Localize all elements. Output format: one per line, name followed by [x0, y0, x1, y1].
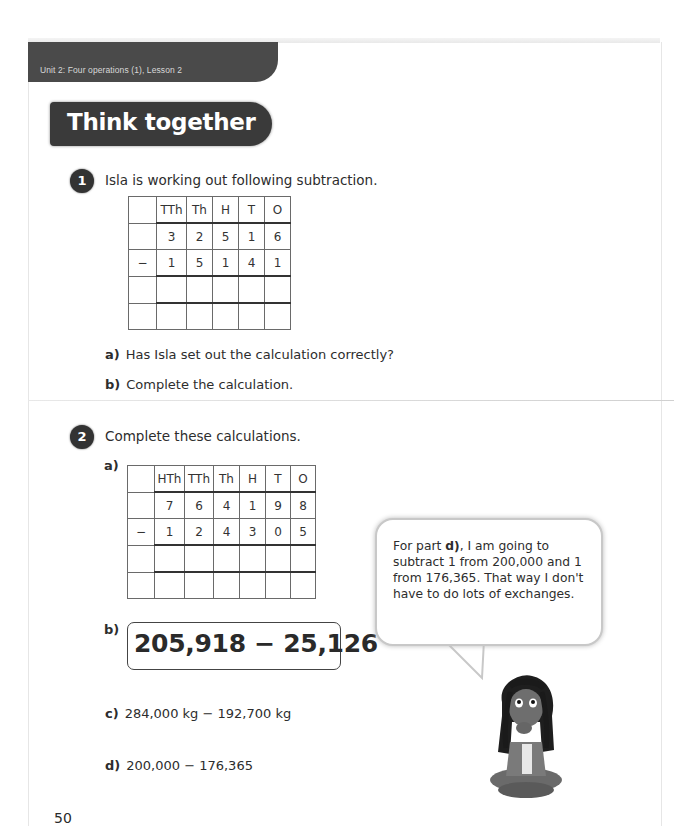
column-header-h: H: [240, 466, 266, 493]
page-number: 50: [54, 810, 72, 826]
answer-cell: [128, 545, 155, 572]
question-2-number-badge: 2: [70, 425, 94, 449]
table-row: − 1 2 4 3 0 5: [128, 519, 316, 546]
table-cell: 1: [239, 223, 265, 250]
minus-sign: −: [128, 519, 155, 546]
answer-cell[interactable]: [213, 276, 239, 303]
answer-row: [128, 572, 316, 599]
answer-cell[interactable]: [265, 303, 291, 330]
answer-cell[interactable]: [239, 303, 265, 330]
table-cell: [129, 223, 157, 250]
column-header-t: T: [266, 466, 291, 493]
table-cell: 5: [291, 519, 316, 546]
table-row: 3 2 5 1 6: [129, 223, 291, 250]
table-cell: 2: [185, 519, 214, 546]
question-2-part-c: c)284,000 kg − 192,700 kg: [105, 706, 291, 721]
question-2-part-b-label: b): [104, 622, 125, 637]
table-cell: [128, 492, 155, 519]
answer-row: [128, 545, 316, 572]
table-cell: 4: [214, 492, 240, 519]
answer-cell: [129, 276, 157, 303]
table-cell: [129, 197, 157, 224]
expression-q2b: 205,918 − 25,126: [134, 629, 378, 658]
section-title-pill: Think together: [50, 102, 272, 146]
table-header-row: HTh TTh Th H T O: [128, 466, 316, 493]
table-cell: 9: [266, 492, 291, 519]
table-cell: 1: [240, 492, 266, 519]
answer-cell[interactable]: [185, 572, 214, 599]
unit-label: Unit 2: Four operations (1), Lesson 2: [40, 65, 182, 75]
column-header-tth: TTh: [185, 466, 214, 493]
answer-cell: [129, 303, 157, 330]
answer-cell[interactable]: [266, 545, 291, 572]
answer-cell[interactable]: [214, 572, 240, 599]
table-cell: 3: [157, 223, 187, 250]
answer-cell[interactable]: [155, 572, 185, 599]
answer-cell[interactable]: [265, 276, 291, 303]
girl-thinking-icon: [480, 672, 572, 802]
table-cell: 7: [155, 492, 185, 519]
table-cell: 0: [266, 519, 291, 546]
place-value-table-q2a: HTh TTh Th H T O 7 6 4 1 9 8 − 1 2 4 3 0…: [127, 465, 316, 599]
answer-cell[interactable]: [155, 545, 185, 572]
table-cell: 8: [291, 492, 316, 519]
answer-cell[interactable]: [266, 572, 291, 599]
table-cell: 1: [155, 519, 185, 546]
answer-cell[interactable]: [185, 545, 214, 572]
question-1-prompt: Isla is working out following subtractio…: [105, 172, 377, 188]
answer-cell[interactable]: [240, 572, 266, 599]
table-cell: 6: [185, 492, 214, 519]
table-header-row: TTh Th H T O: [129, 197, 291, 224]
answer-cell[interactable]: [187, 276, 213, 303]
answer-cell: [128, 572, 155, 599]
answer-cell[interactable]: [157, 303, 187, 330]
table-cell: [128, 466, 155, 493]
column-header-h: H: [213, 197, 239, 224]
table-cell: 3: [240, 519, 266, 546]
column-header-o: O: [291, 466, 316, 493]
table-cell: 1: [265, 250, 291, 277]
table-cell: 5: [213, 223, 239, 250]
column-header-th: Th: [214, 466, 240, 493]
page-fold-line: [28, 400, 674, 401]
column-header-hth: HTh: [155, 466, 185, 493]
table-cell: 5: [187, 250, 213, 277]
table-cell: 4: [239, 250, 265, 277]
question-1-part-b: b)Complete the calculation.: [105, 377, 293, 392]
question-2-prompt: Complete these calculations.: [105, 428, 301, 444]
answer-cell[interactable]: [213, 303, 239, 330]
column-header-th: Th: [187, 197, 213, 224]
column-header-o: O: [265, 197, 291, 224]
column-header-tth: TTh: [157, 197, 187, 224]
table-cell: 4: [214, 519, 240, 546]
question-1-number-badge: 1: [70, 169, 94, 193]
expression-box-q2b: 205,918 − 25,126: [127, 622, 341, 670]
answer-row: [129, 303, 291, 330]
table-row: 7 6 4 1 9 8: [128, 492, 316, 519]
answer-cell[interactable]: [157, 276, 187, 303]
answer-row: [129, 276, 291, 303]
answer-cell[interactable]: [291, 572, 316, 599]
speech-bubble-text: For part d), I am going to subtract 1 fr…: [393, 538, 593, 602]
minus-sign: −: [129, 250, 157, 277]
table-row: − 1 5 1 4 1: [129, 250, 291, 277]
answer-cell[interactable]: [291, 545, 316, 572]
table-cell: 1: [213, 250, 239, 277]
answer-cell[interactable]: [239, 276, 265, 303]
answer-cell[interactable]: [214, 545, 240, 572]
column-header-t: T: [239, 197, 265, 224]
table-cell: 6: [265, 223, 291, 250]
question-2-part-d: d)200,000 − 176,365: [105, 758, 253, 773]
question-2-part-a-label: a): [104, 458, 125, 473]
table-cell: 2: [187, 223, 213, 250]
unit-header-bar: Unit 2: Four operations (1), Lesson 2: [28, 42, 278, 82]
table-cell: 1: [157, 250, 187, 277]
answer-cell[interactable]: [187, 303, 213, 330]
place-value-table-q1: TTh Th H T O 3 2 5 1 6 − 1 5 1 4 1: [128, 196, 291, 330]
answer-cell[interactable]: [240, 545, 266, 572]
section-title: Think together: [67, 109, 256, 135]
question-1-part-a: a)Has Isla set out the calculation corre…: [105, 347, 394, 362]
